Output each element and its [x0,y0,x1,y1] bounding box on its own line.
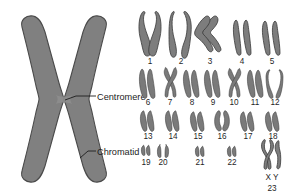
single-chromosome-diagram: Centromere Chromatid [22,16,146,182]
pair-number-22: 22 [227,158,237,167]
centromere-constriction [56,95,72,104]
chromosome-karyotype-figure: Centromere Chromatid 1 2 [0,0,288,195]
chromosome-pair-18: 18 [265,112,279,141]
pair-number-7: 7 [168,98,173,107]
figure-canvas: Centromere Chromatid 1 2 [0,0,288,195]
pair-number-14: 14 [168,132,178,141]
chromosome-pair-1: 1 [139,12,161,67]
chromosome-pair-8: 8 [183,70,199,107]
chromosome-pair-9: 9 [204,70,220,107]
chromosome-pair-15: 15 [190,112,204,141]
pair-number-17: 17 [243,132,253,141]
chromosome-pair-sex: X Y 23 [262,140,281,193]
human-karyotype: 1 2 3 4 [139,12,283,194]
karyotype-row-3: 13 14 15 16 [140,111,279,141]
pair-number-16: 16 [217,132,227,141]
pair-number-10: 10 [229,98,239,107]
centromere-label: Centromere [97,92,146,102]
pair-number-19: 19 [141,158,151,167]
karyotype-row-2: 6 7 8 9 [139,68,283,108]
pair-number-23: 23 [267,184,277,193]
chromosome-pair-12: 12 [266,70,283,107]
chromosome-pair-13: 13 [140,111,154,141]
chromosome-pair-21: 21 [195,146,205,167]
chromosome-pair-14: 14 [165,111,179,141]
chromosome-pair-22: 22 [227,146,237,167]
karyotype-row-1: 1 2 3 4 [139,12,280,67]
chromosome-pair-17: 17 [240,112,254,141]
chromosome-pair-11: 11 [247,70,263,107]
chromatid-label: Chromatid [97,147,139,157]
karyotype-row-4: 19 20 21 22 [141,140,280,193]
pair-number-3: 3 [208,57,213,66]
pair-number-12: 12 [270,98,280,107]
pair-number-8: 8 [190,98,195,107]
chromosome-pair-20: 20 [157,144,168,167]
chromosome-pair-16: 16 [215,111,230,141]
sex-chromosome-label: X Y [265,173,279,182]
pair-number-15: 15 [193,132,203,141]
chromosome-pair-19: 19 [141,145,151,167]
chromosome-pair-3: 3 [195,16,221,66]
chromosome-pair-5: 5 [262,21,280,66]
pair-number-11: 11 [251,98,260,107]
chromosome-pair-4: 4 [233,20,251,66]
pair-number-20: 20 [158,158,168,167]
pair-number-4: 4 [240,57,245,66]
chromosome-pair-7: 7 [164,68,177,108]
chromosome-pair-2: 2 [169,12,191,67]
pair-number-5: 5 [270,57,275,66]
pair-number-1: 1 [148,57,153,66]
pair-number-9: 9 [211,98,216,107]
pair-number-13: 13 [143,132,153,141]
chromosome-pair-10: 10 [228,69,241,108]
pair-number-2: 2 [179,57,184,66]
pair-number-6: 6 [146,98,151,107]
pair-number-21: 21 [195,158,205,167]
